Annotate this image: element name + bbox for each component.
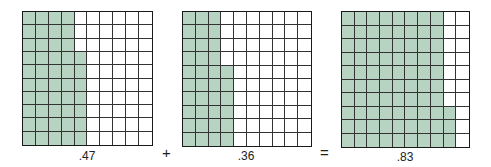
empty-cell: [273, 25, 286, 38]
shaded-cell: [221, 133, 234, 146]
shaded-cell: [405, 93, 418, 107]
shaded-cell: [342, 26, 355, 40]
shaded-cell: [418, 26, 431, 40]
shaded-cell: [49, 79, 62, 92]
shaded-cell: [183, 25, 196, 38]
empty-cell: [247, 66, 260, 79]
shaded-cell: [418, 39, 431, 53]
shaded-cell: [62, 118, 75, 131]
empty-cell: [113, 39, 126, 52]
shaded-cell: [418, 120, 431, 134]
empty-cell: [139, 12, 152, 25]
shaded-cell: [196, 106, 209, 119]
empty-cell: [139, 39, 152, 52]
shaded-cell: [405, 80, 418, 94]
shaded-cell: [367, 66, 380, 80]
shaded-cell: [355, 39, 368, 53]
shaded-cell: [355, 93, 368, 107]
shaded-cell: [393, 26, 406, 40]
hundred-grid-1: [22, 11, 153, 146]
empty-cell: [444, 80, 457, 94]
empty-cell: [273, 119, 286, 132]
shaded-cell: [418, 53, 431, 67]
shaded-cell: [405, 134, 418, 148]
shaded-cell: [209, 66, 222, 79]
shaded-cell: [367, 26, 380, 40]
shaded-cell: [221, 119, 234, 132]
shaded-cell: [367, 120, 380, 134]
empty-cell: [247, 12, 260, 25]
shaded-cell: [183, 12, 196, 25]
empty-cell: [444, 12, 457, 26]
shaded-cell: [405, 66, 418, 80]
shaded-cell: [196, 92, 209, 105]
empty-cell: [87, 118, 100, 131]
empty-cell: [298, 25, 311, 38]
grid-3-label: .83: [375, 150, 435, 164]
shaded-cell: [196, 119, 209, 132]
shaded-cell: [62, 52, 75, 65]
shaded-cell: [36, 79, 49, 92]
empty-cell: [247, 52, 260, 65]
shaded-cell: [380, 26, 393, 40]
shaded-cell: [342, 39, 355, 53]
shaded-cell: [355, 107, 368, 121]
empty-cell: [298, 52, 311, 65]
empty-cell: [126, 52, 139, 65]
empty-cell: [139, 52, 152, 65]
empty-cell: [273, 106, 286, 119]
grid-1-label: .47: [57, 149, 117, 163]
shaded-cell: [75, 132, 88, 145]
empty-cell: [273, 66, 286, 79]
empty-cell: [100, 132, 113, 145]
empty-cell: [87, 52, 100, 65]
shaded-cell: [75, 92, 88, 105]
empty-cell: [100, 118, 113, 131]
empty-cell: [139, 92, 152, 105]
shaded-cell: [418, 93, 431, 107]
empty-cell: [234, 92, 247, 105]
shaded-cell: [183, 79, 196, 92]
empty-cell: [273, 39, 286, 52]
shaded-cell: [75, 118, 88, 131]
empty-cell: [285, 79, 298, 92]
shaded-cell: [355, 12, 368, 26]
empty-cell: [260, 133, 273, 146]
empty-cell: [285, 66, 298, 79]
empty-cell: [234, 79, 247, 92]
empty-cell: [456, 26, 469, 40]
shaded-cell: [209, 12, 222, 25]
empty-cell: [444, 26, 457, 40]
shaded-cell: [380, 53, 393, 67]
shaded-cell: [23, 132, 36, 145]
empty-cell: [100, 52, 113, 65]
shaded-cell: [405, 107, 418, 121]
empty-cell: [139, 132, 152, 145]
shaded-cell: [23, 79, 36, 92]
shaded-cell: [196, 133, 209, 146]
shaded-cell: [342, 12, 355, 26]
empty-cell: [139, 25, 152, 38]
shaded-cell: [431, 120, 444, 134]
shaded-cell: [367, 93, 380, 107]
shaded-cell: [393, 120, 406, 134]
shaded-cell: [431, 107, 444, 121]
shaded-cell: [431, 39, 444, 53]
shaded-cell: [342, 93, 355, 107]
empty-cell: [247, 39, 260, 52]
shaded-cell: [23, 65, 36, 78]
shaded-cell: [196, 66, 209, 79]
shaded-cell: [393, 134, 406, 148]
shaded-cell: [49, 25, 62, 38]
shaded-cell: [431, 12, 444, 26]
shaded-cell: [36, 25, 49, 38]
empty-cell: [113, 92, 126, 105]
empty-cell: [298, 133, 311, 146]
empty-cell: [456, 134, 469, 148]
empty-cell: [126, 92, 139, 105]
shaded-cell: [380, 120, 393, 134]
shaded-cell: [62, 105, 75, 118]
empty-cell: [260, 39, 273, 52]
shaded-cell: [49, 65, 62, 78]
shaded-cell: [393, 107, 406, 121]
